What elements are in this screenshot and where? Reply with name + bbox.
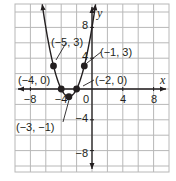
x-tick-label: 4 (120, 93, 126, 105)
leader-line (87, 52, 101, 63)
x-tick-label: 8 (151, 93, 157, 105)
x-axis-label: x (159, 73, 166, 87)
x-tick-label: −4 (55, 93, 68, 105)
x-axis-arrow-right-icon (160, 87, 166, 92)
y-tick-label: 8 (82, 19, 88, 31)
x-tick-label: −8 (24, 93, 37, 105)
point-label: (−2, 0) (95, 74, 127, 86)
data-point (50, 63, 57, 70)
point-label: (−3, −1) (16, 121, 55, 133)
data-point (81, 63, 88, 70)
y-axis-label: y (96, 6, 103, 20)
point-label: (−5, 3) (51, 36, 83, 48)
curve-arrow-icon (41, 4, 46, 10)
x-tick-label: 0 (83, 93, 89, 105)
y-tick-label: 4 (82, 50, 88, 62)
point-label: (−4, 0) (18, 74, 50, 86)
coordinate-plane: −8−404884−4−8 (−5, 3)(−4, 0)(−3, −1)(−2,… (0, 0, 176, 181)
y-tick-label: −8 (75, 147, 88, 159)
point-labels: (−5, 3)(−4, 0)(−3, −1)(−2, 0)(−1, 3) (16, 36, 132, 133)
x-axis-arrow-left-icon (18, 87, 24, 92)
point-label: (−1, 3) (100, 46, 132, 58)
data-point (58, 86, 65, 93)
y-tick-label: −4 (75, 112, 88, 124)
data-point (73, 86, 80, 93)
